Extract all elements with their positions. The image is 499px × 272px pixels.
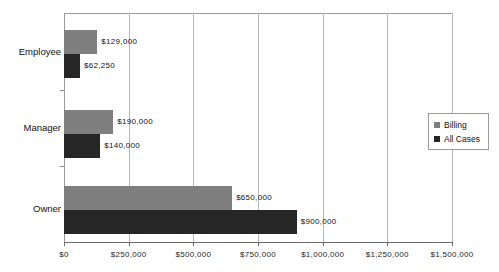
chart-legend: Billing All Cases <box>428 113 489 150</box>
bar-owner-billing <box>64 186 232 210</box>
category-label-employee: Employee <box>19 46 61 58</box>
x-axis-tick <box>258 242 259 246</box>
bar-value-employee-all-cases: $62,250 <box>84 61 115 71</box>
x-axis-tick <box>387 242 388 246</box>
x-axis-tick <box>129 242 130 246</box>
category-label-owner: Owner <box>33 203 61 215</box>
bar-value-owner-billing: $650,000 <box>236 193 272 203</box>
legend-item-all-cases: All Cases <box>434 133 480 145</box>
gridline <box>258 13 259 242</box>
gridline <box>323 13 324 242</box>
x-axis-tick <box>452 242 453 246</box>
bar-owner-all-cases <box>64 210 297 234</box>
bar-manager-all-cases <box>64 134 100 158</box>
bar-employee-all-cases <box>64 54 80 78</box>
bar-value-employee-billing: $129,000 <box>101 37 137 47</box>
bar-employee-billing <box>64 30 97 54</box>
legend-swatch-icon-all-cases <box>434 136 440 142</box>
bar-manager-billing <box>64 110 113 134</box>
category-separator-tick <box>60 166 65 167</box>
gridline <box>387 13 388 242</box>
x-axis-tick <box>193 242 194 246</box>
x-axis-tick <box>64 242 65 246</box>
bar-value-manager-all-cases: $140,000 <box>104 141 140 151</box>
category-label-manager: Manager <box>24 122 62 134</box>
bar-value-owner-all-cases: $900,000 <box>301 217 337 227</box>
legend-label-all-cases: All Cases <box>444 134 480 144</box>
legend-label-billing: Billing <box>444 120 467 130</box>
category-separator-tick <box>60 90 65 91</box>
x-axis-tick <box>323 242 324 246</box>
bar-value-manager-billing: $190,000 <box>117 117 153 127</box>
x-axis-tick-label: $1,500,000 <box>412 250 492 260</box>
bar-chart: $0$250,000$500,000$750,000$1,000,000$1,2… <box>0 0 499 272</box>
legend-item-billing: Billing <box>434 119 467 131</box>
legend-swatch-icon-billing <box>434 122 440 128</box>
